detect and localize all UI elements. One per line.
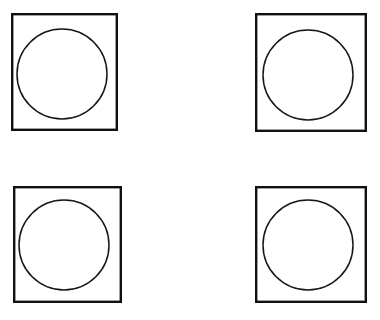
cell-bottom-left-circle [19, 200, 109, 290]
cell-bottom-left-square [14, 187, 121, 302]
cell-top-right-drawing [250, 8, 372, 137]
cell-bottom-left-drawing [8, 181, 127, 308]
cell-bottom-right-circle [263, 200, 353, 290]
cell-bottom-left [8, 181, 127, 308]
cell-bottom-right-square [256, 187, 366, 302]
cell-top-left-circle [17, 29, 107, 119]
cell-bottom-right [250, 181, 372, 308]
cell-top-left-square [12, 14, 117, 130]
cell-top-right-circle [263, 30, 353, 120]
cell-top-left-drawing [6, 8, 123, 136]
cell-bottom-right-drawing [250, 181, 372, 308]
cell-top-right-square [256, 14, 366, 131]
cell-top-left [6, 8, 123, 136]
figure-canvas [0, 0, 380, 320]
cell-top-right [250, 8, 372, 137]
